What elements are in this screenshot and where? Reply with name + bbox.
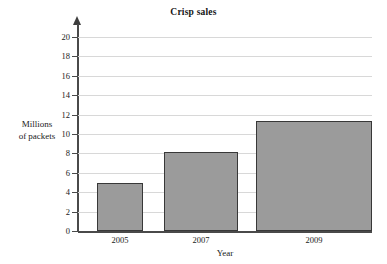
x-axis-tick-label: 2007: [164, 235, 238, 245]
y-axis-tick: [72, 115, 78, 116]
y-axis-tick: [72, 153, 78, 154]
bar-2007: [164, 152, 238, 231]
gridline: [78, 95, 372, 96]
y-axis-tick: [72, 212, 78, 213]
y-axis-tick: [72, 76, 78, 77]
x-axis-tick-label: 2005: [97, 235, 143, 245]
bar-2009: [256, 121, 372, 231]
y-axis-tick-label: 0: [52, 226, 70, 236]
y-axis-tick: [72, 192, 78, 193]
y-axis-tick-label: 6: [52, 168, 70, 178]
y-axis-tick-label: 14: [52, 90, 70, 100]
y-axis-title-line1: Millions: [4, 119, 70, 131]
x-axis-title: Year: [78, 248, 372, 258]
gridline: [78, 56, 372, 57]
y-axis-tick: [72, 37, 78, 38]
y-axis-tick-label: 16: [52, 71, 70, 81]
y-axis-tick: [72, 134, 78, 135]
chart-title: Crisp sales: [0, 7, 387, 17]
y-axis-tick-label: 18: [52, 51, 70, 61]
y-axis-title-line2: of packets: [4, 131, 70, 143]
y-axis-tick: [72, 231, 78, 232]
gridline: [78, 37, 372, 38]
y-axis-title: Millions of packets: [4, 119, 70, 142]
bar-2005: [97, 183, 143, 232]
gridline: [78, 76, 372, 77]
x-axis-tick-label: 2009: [256, 235, 372, 245]
plot-area: [78, 37, 372, 231]
y-axis-tick-label: 4: [52, 187, 70, 197]
y-axis-tick-label: 20: [52, 32, 70, 42]
y-axis-tick-label: 2: [52, 207, 70, 217]
gridline: [78, 115, 372, 116]
bar-chart: Crisp sales 02468101214161820 2005200720…: [0, 0, 387, 264]
y-axis-tick: [72, 56, 78, 57]
y-axis-tick: [72, 95, 78, 96]
y-axis-tick-label: 8: [52, 148, 70, 158]
x-axis-line: [78, 231, 372, 233]
y-axis-tick: [72, 173, 78, 174]
